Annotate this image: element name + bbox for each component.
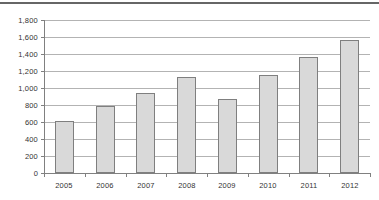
x-axis-tick <box>329 174 330 177</box>
y-gridline <box>44 105 370 106</box>
x-axis-label: 2011 <box>294 181 324 190</box>
bar-2011 <box>299 57 318 173</box>
x-axis-tick <box>166 174 167 177</box>
x-axis-tick <box>248 174 249 177</box>
x-axis-tick <box>289 174 290 177</box>
y-axis-tick-label: 1,600 <box>6 33 38 42</box>
y-axis-tick-label: 1,000 <box>6 84 38 93</box>
y-gridline <box>44 139 370 140</box>
bar-2012 <box>340 40 359 173</box>
y-gridline <box>44 37 370 38</box>
x-axis-label: 2009 <box>212 181 242 190</box>
y-gridline <box>44 20 370 21</box>
x-axis-tick <box>44 174 45 177</box>
y-axis-line <box>44 20 45 174</box>
bar-2008 <box>177 77 196 173</box>
y-axis-tick-label: 200 <box>6 152 38 161</box>
bar-2007 <box>136 93 155 173</box>
x-axis-label: 2012 <box>335 181 365 190</box>
x-axis-tick <box>126 174 127 177</box>
x-axis-tick <box>85 174 86 177</box>
bar-chart: 02004006008001,0001,2001,4001,6001,80020… <box>0 0 379 200</box>
y-gridline <box>44 122 370 123</box>
y-gridline <box>44 88 370 89</box>
x-axis-label: 2006 <box>90 181 120 190</box>
y-axis-tick-label: 600 <box>6 118 38 127</box>
y-gridline <box>44 54 370 55</box>
bar-2006 <box>96 106 115 173</box>
x-axis-label: 2007 <box>131 181 161 190</box>
x-axis-label: 2008 <box>172 181 202 190</box>
y-axis-tick-label: 800 <box>6 101 38 110</box>
bar-2010 <box>259 75 278 173</box>
plot-area: 02004006008001,0001,2001,4001,6001,80020… <box>0 0 379 200</box>
x-axis-line <box>44 173 371 174</box>
x-axis-label: 2005 <box>49 181 79 190</box>
y-gridline <box>44 71 370 72</box>
chart-page: 02004006008001,0001,2001,4001,6001,80020… <box>0 0 379 200</box>
bar-2009 <box>218 99 237 173</box>
bar-2005 <box>55 121 74 173</box>
y-axis-tick-label: 400 <box>6 135 38 144</box>
y-gridline <box>44 156 370 157</box>
x-axis-tick <box>207 174 208 177</box>
y-axis-tick-label: 0 <box>6 169 38 178</box>
y-axis-tick-label: 1,200 <box>6 67 38 76</box>
y-axis-tick-label: 1,800 <box>6 16 38 25</box>
x-axis-tick <box>370 174 371 177</box>
x-axis-label: 2010 <box>253 181 283 190</box>
y-axis-tick-label: 1,400 <box>6 50 38 59</box>
